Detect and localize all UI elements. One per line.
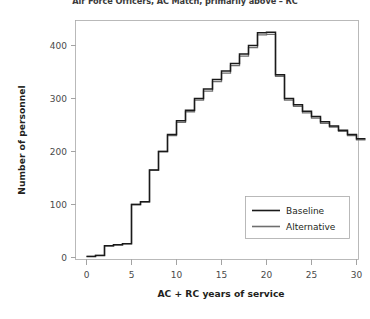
x-tick-label: 10	[171, 270, 183, 280]
y-tick-label: 400	[50, 41, 67, 51]
x-axis-tick-labels: 0 5 10 15 20 25 30	[84, 270, 363, 280]
legend-label-alternative: Alternative	[286, 222, 336, 232]
x-tick-label: 0	[84, 270, 90, 280]
y-tick-label: 100	[50, 200, 67, 210]
legend-label-baseline: Baseline	[286, 206, 325, 216]
x-tick-label: 5	[129, 270, 135, 280]
y-tick-label: 0	[61, 253, 67, 263]
y-tick-label: 300	[50, 94, 67, 104]
x-tick-label: 30	[351, 270, 363, 280]
x-axis-title: AC + RC years of service	[157, 288, 284, 299]
chart-legend: Baseline Alternative	[246, 197, 350, 239]
chart-figure: Air Force Officers, AC Match, primarily …	[0, 0, 370, 319]
legend-frame	[246, 197, 350, 239]
y-axis-tick-labels: 400 300 200 100 0	[50, 41, 67, 263]
y-tick-label: 200	[50, 147, 67, 157]
x-tick-label: 25	[306, 270, 317, 280]
y-axis-title: Number of personnel	[16, 85, 27, 194]
y-axis-ticks	[71, 46, 76, 258]
x-tick-label: 20	[261, 270, 273, 280]
x-axis-ticks	[87, 260, 357, 266]
chart-plot-area: 400 300 200 100 0 0 5 10 15 20 25 30 A	[0, 0, 370, 319]
x-tick-label: 15	[216, 270, 227, 280]
